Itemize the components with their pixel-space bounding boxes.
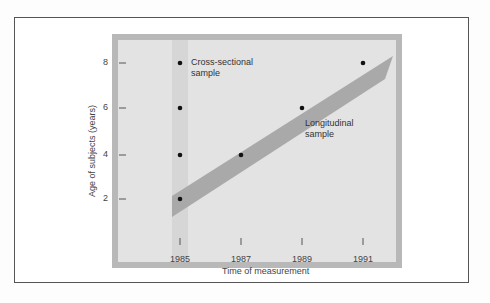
- point-1989-6: [300, 106, 305, 111]
- point-1987-4: [239, 153, 244, 158]
- cross-sectional-label-line2: sample: [191, 68, 253, 79]
- x-tick-1985: 1985: [170, 254, 190, 264]
- y-tick-2: 2: [103, 193, 108, 203]
- point-1985-6: [178, 106, 183, 111]
- longitudinal-label-line1: Longitudinal: [305, 118, 354, 129]
- point-1985-2: [178, 197, 183, 202]
- x-tick-1987: 1987: [231, 254, 251, 264]
- x-tick-1991: 1991: [353, 254, 373, 264]
- point-1991-8: [361, 61, 366, 66]
- x-tick-1989: 1989: [292, 254, 312, 264]
- point-1985-8: [178, 61, 183, 66]
- longitudinal-label-line2: sample: [305, 129, 354, 140]
- cross-sectional-annotation: Cross-sectional sample: [191, 57, 253, 79]
- longitudinal-annotation: Longitudinal sample: [305, 118, 354, 140]
- y-tick-8: 8: [103, 57, 108, 67]
- longitudinal-band: [172, 56, 393, 217]
- y-tick-4: 4: [103, 149, 108, 159]
- y-tick-6: 6: [103, 102, 108, 112]
- cross-sectional-label-line1: Cross-sectional: [191, 57, 253, 68]
- y-axis-label: Age of subjects (years): [87, 91, 97, 211]
- point-1985-4: [178, 153, 183, 158]
- x-axis-label: Time of measurement: [222, 266, 309, 276]
